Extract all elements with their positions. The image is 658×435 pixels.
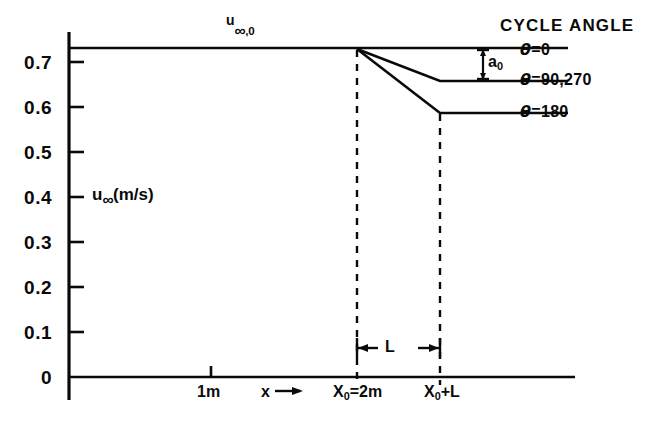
- x-tick-label-x0: X0=2m: [333, 384, 382, 402]
- a0-subscript: 0: [497, 60, 503, 72]
- y-tick-label-0-1: 0.1: [4, 323, 52, 342]
- theta-value: =0: [531, 41, 550, 58]
- a0-main: a: [488, 53, 497, 70]
- x-axis-label-text: x: [261, 383, 270, 400]
- x0l-rest: +L: [441, 383, 460, 400]
- y-tick-label-0-3: 0.3: [4, 233, 52, 252]
- y-tick-marks: [69, 62, 84, 332]
- y-tick-label-0-6: 0.6: [4, 98, 52, 117]
- theta-value: =180: [531, 103, 568, 120]
- y-tick-label-0-4: 0.4: [4, 188, 52, 207]
- x-axis-label: x: [261, 384, 270, 400]
- annotation-label-l: L: [385, 339, 395, 355]
- x-tick-label-x0-plus-l: X0+L: [424, 384, 460, 402]
- x0l-main: X: [424, 383, 435, 400]
- y-axis-title-units: (m/s): [113, 185, 154, 204]
- freestream-label: u∞,0: [226, 14, 255, 38]
- y-tick-label-0-7: 0.7: [4, 53, 52, 72]
- theta-symbol: θ: [520, 40, 531, 59]
- curve-label-theta-180: θ=180: [520, 104, 569, 120]
- y-axis-title: u∞(m/s): [92, 186, 154, 207]
- y-tick-label-0-5: 0.5: [4, 143, 52, 162]
- freestream-infinity: ∞: [235, 22, 246, 39]
- y-axis-title-infinity: ∞: [102, 191, 113, 208]
- x-tick-label-1m: 1m: [197, 384, 220, 400]
- freestream-subscript: ,0: [245, 25, 255, 37]
- annotation-l-arrow: [357, 338, 440, 358]
- y-tick-label-0: 0: [4, 368, 52, 387]
- theta-symbol: θ: [520, 102, 531, 121]
- y-tick-label-0-2: 0.2: [4, 278, 52, 297]
- x-axis-arrow-icon: [275, 387, 303, 395]
- y-axis-title-u: u: [92, 185, 102, 204]
- figure-container: 0.7 0.6 0.5 0.4 0.3 0.2 0.1 0 u∞(m/s) u∞…: [0, 0, 658, 435]
- theta-symbol: θ: [520, 70, 531, 89]
- curve-label-theta-0: θ=0: [520, 42, 550, 58]
- x0-main: X: [333, 383, 344, 400]
- legend-title: CYCLE ANGLE: [500, 17, 634, 34]
- freestream-u: u: [226, 12, 235, 28]
- theta-value: =90,270: [531, 71, 591, 88]
- plot-svg: [0, 0, 658, 435]
- curve-label-theta-90-270: θ=90,270: [520, 72, 592, 88]
- x0-rest: =2m: [350, 383, 382, 400]
- annotation-label-a0: a0: [488, 54, 503, 72]
